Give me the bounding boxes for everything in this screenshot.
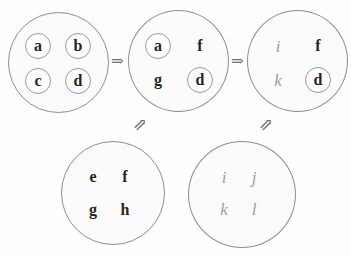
slot-s2-2: j <box>241 164 267 190</box>
state-circle-1: a b c d <box>8 12 109 113</box>
slot-2-3: g <box>145 67 171 93</box>
slot-label: d <box>314 72 323 88</box>
slot-3-3: k <box>265 67 291 93</box>
slot-label: j <box>252 169 257 186</box>
slot-label: b <box>74 38 83 54</box>
slot-label: f <box>197 38 202 54</box>
slot-1-4: d <box>65 68 91 94</box>
slot-label: d <box>74 73 83 89</box>
slot-s1-2: f <box>112 164 138 190</box>
slot-3-4: d <box>305 67 331 93</box>
slot-s1-4: h <box>112 197 138 223</box>
slot-label: k <box>274 72 282 89</box>
state-circle-2: a f g d <box>128 10 229 112</box>
slot-label: g <box>89 202 97 218</box>
slot-3-2: f <box>305 33 331 59</box>
slot-label: l <box>252 201 257 218</box>
slot-label: a <box>154 38 162 54</box>
slot-label: k <box>220 201 228 218</box>
source-circle-2: i j k l <box>188 141 296 248</box>
slot-label: c <box>34 73 41 89</box>
slot-2-1: a <box>145 33 171 59</box>
slot-label: e <box>89 169 96 185</box>
slot-s2-4: l <box>241 196 267 222</box>
slot-1-1: a <box>25 33 51 59</box>
slot-2-4: d <box>187 67 213 93</box>
slot-s2-1: i <box>211 164 237 190</box>
slot-label: f <box>315 38 320 54</box>
slot-label: g <box>154 72 162 88</box>
slot-s2-3: k <box>211 196 237 222</box>
state-circle-3: i f k d <box>247 10 348 112</box>
diagram-canvas: a b c d ⇒ a f g d ⇒ i f <box>0 0 351 256</box>
slot-label: i <box>276 38 281 55</box>
slot-label: d <box>196 72 205 88</box>
source-arrow-2: ⇗ <box>259 116 273 133</box>
source-arrow-1: ⇗ <box>133 116 147 133</box>
slot-1-2: b <box>65 33 91 59</box>
slot-s1-3: g <box>80 197 106 223</box>
slot-1-3: c <box>25 68 51 94</box>
slot-label: i <box>222 169 227 186</box>
slot-label: a <box>34 38 42 54</box>
transition-arrow-2: ⇒ <box>231 54 244 69</box>
transition-arrow-1: ⇒ <box>111 54 124 69</box>
slot-3-1: i <box>265 33 291 59</box>
slot-s1-1: e <box>80 164 106 190</box>
slot-2-2: f <box>187 33 213 59</box>
source-circle-1: e f g h <box>61 141 165 245</box>
slot-label: h <box>121 202 130 218</box>
slot-label: f <box>122 169 127 185</box>
